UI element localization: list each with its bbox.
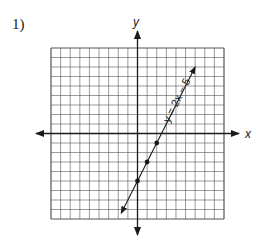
axes xyxy=(36,31,239,235)
x-axis-label: x xyxy=(244,127,252,141)
coordinate-graph: x y y = 2x − 5 xyxy=(0,0,260,239)
y-axis-label: y xyxy=(132,15,140,29)
line-equation-label: y = 2x − 5 xyxy=(160,76,192,125)
